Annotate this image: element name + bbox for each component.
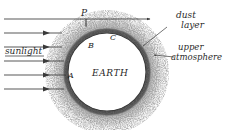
- dust-layer-label-line1: dust: [176, 10, 196, 20]
- earth-dust-layer-diagram: sunlight dust layer upper atmosphere EAR…: [0, 0, 227, 130]
- point-p-label: P: [80, 8, 88, 18]
- diagram-canvas: sunlight dust layer upper atmosphere EAR…: [0, 0, 227, 130]
- point-b-label: B: [87, 41, 94, 50]
- point-a-label: A: [67, 71, 74, 80]
- upper-atmosphere-label-line2: atmosphere: [171, 52, 222, 62]
- upper-atmosphere-label-line1: upper: [178, 42, 204, 52]
- dust-layer-label-line2: layer: [181, 20, 205, 30]
- ray-arrow-3: [43, 44, 50, 49]
- sunlight-label: sunlight: [5, 46, 43, 56]
- ray-arrow-2: [43, 30, 50, 35]
- earth-label: EARTH: [91, 68, 129, 78]
- point-c-label: C: [110, 33, 116, 42]
